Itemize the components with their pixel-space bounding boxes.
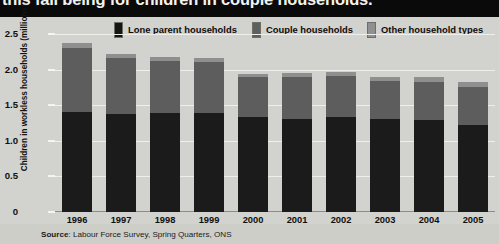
bar-segment-lone-parent (282, 119, 312, 212)
bar-segment-couple (458, 87, 488, 125)
bar-segment-other (150, 57, 180, 61)
bar-segment-lone-parent (106, 114, 136, 212)
x-axis-tick-label-2005: 2005 (450, 215, 496, 225)
bar-2000[interactable] (238, 74, 268, 212)
y-axis-title: Children in workless households (million… (20, 3, 30, 173)
bar-2004[interactable] (414, 77, 444, 212)
bar-segment-other (326, 72, 356, 76)
bar-segment-couple (370, 81, 400, 119)
x-axis-tick-label-1997: 1997 (98, 215, 144, 225)
bar-segment-other (62, 43, 92, 48)
bar-segment-other (370, 77, 400, 81)
y-axis-tick-mark (48, 175, 55, 177)
y-axis-tick-mark (48, 211, 55, 213)
y-axis-tick-mark (48, 104, 55, 106)
y-axis-tick-mark (48, 140, 55, 142)
bar-segment-couple (326, 76, 356, 117)
y-axis-tick-label: 1.5 (0, 100, 18, 110)
bar-2002[interactable] (326, 72, 356, 212)
x-axis-tick-label-2001: 2001 (274, 215, 320, 225)
x-axis-tick-label-1999: 1999 (186, 215, 232, 225)
x-axis-tick-label-2002: 2002 (318, 215, 364, 225)
y-axis-tick-label: 2.5 (0, 29, 18, 39)
bar-segment-lone-parent (458, 125, 488, 212)
page-title: this fall being for children in couple h… (2, 0, 497, 8)
bar-1997[interactable] (106, 54, 136, 212)
chart-screenshot: this fall being for children in couple h… (0, 0, 499, 244)
bar-segment-other (194, 58, 224, 62)
bar-segment-lone-parent (238, 117, 268, 212)
bar-segment-lone-parent (194, 113, 224, 212)
y-axis-tick-label: 2.0 (0, 65, 18, 75)
bar-1999[interactable] (194, 58, 224, 213)
bar-segment-couple (238, 77, 268, 116)
bar-segment-lone-parent (62, 112, 92, 212)
x-axis-tick-label-1998: 1998 (142, 215, 188, 225)
source-prefix: Source (41, 230, 68, 239)
y-axis-tick-label: 0 (0, 207, 18, 217)
x-axis-tick-label-2003: 2003 (362, 215, 408, 225)
source-text: : Labour Force Survey, Spring Quarters, … (68, 230, 231, 239)
bar-segment-lone-parent (326, 117, 356, 212)
x-axis-tick-label-2000: 2000 (230, 215, 276, 225)
title-band: this fall being for children in couple h… (0, 0, 499, 17)
bar-2003[interactable] (370, 77, 400, 212)
bar-segment-other (458, 82, 488, 86)
bar-segment-couple (282, 77, 312, 119)
bar-segment-lone-parent (414, 120, 444, 212)
bar-segment-lone-parent (150, 113, 180, 212)
bar-segment-other (414, 77, 444, 81)
y-axis-tick-label: 1.0 (0, 136, 18, 146)
x-axis-tick-label-1996: 1996 (54, 215, 100, 225)
bar-segment-couple (62, 48, 92, 112)
bar-segment-other (282, 73, 312, 77)
bar-segment-couple (194, 62, 224, 113)
bar-segment-couple (106, 58, 136, 114)
bar-segment-lone-parent (370, 119, 400, 212)
plot-area (55, 34, 495, 212)
y-axis-tick-mark (48, 69, 55, 71)
bar-segment-other (106, 54, 136, 58)
bar-1998[interactable] (150, 57, 180, 212)
y-axis-tick-label: 0.5 (0, 171, 18, 181)
bar-segment-couple (150, 61, 180, 113)
x-axis-tick-label-2004: 2004 (406, 215, 452, 225)
bar-2005[interactable] (458, 82, 488, 212)
bar-segment-couple (414, 82, 444, 120)
bar-1996[interactable] (62, 43, 92, 212)
bar-segment-other (238, 74, 268, 78)
source-note: Source: Labour Force Survey, Spring Quar… (41, 230, 232, 239)
gridline (55, 34, 495, 35)
y-axis-tick-mark (48, 33, 55, 35)
bar-2001[interactable] (282, 73, 312, 212)
